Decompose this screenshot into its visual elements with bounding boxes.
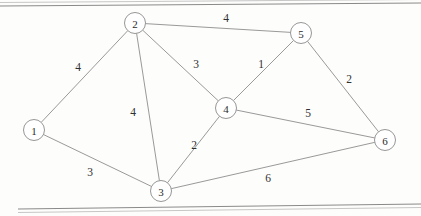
edge-weight-2-5: 4 <box>223 12 229 24</box>
graph-node-5[interactable]: 5 <box>291 23 312 44</box>
edge-weight-1-3: 3 <box>87 166 93 178</box>
graph-edge-2-5 <box>145 24 290 33</box>
graph-canvas: 123456 4343426152 <box>0 0 421 216</box>
graph-edges <box>41 24 378 189</box>
graph-node-1[interactable]: 1 <box>24 120 45 141</box>
page-rules <box>0 0 421 213</box>
graph-nodes: 123456 <box>24 13 396 202</box>
node-label-4: 4 <box>223 103 229 115</box>
edge-weight-2-3: 4 <box>130 106 136 118</box>
top-rule <box>0 3 421 6</box>
graph-node-3[interactable]: 3 <box>151 181 172 202</box>
top-rule-secondary <box>0 0 421 3</box>
graph-node-4[interactable]: 4 <box>216 98 237 119</box>
node-label-6: 6 <box>382 135 388 147</box>
graph-node-2[interactable]: 2 <box>125 13 146 34</box>
graph-edge-4-5 <box>233 40 293 100</box>
edge-weight-3-4: 2 <box>191 139 197 151</box>
node-label-3: 3 <box>158 186 164 198</box>
graph-edge-1-3 <box>43 135 151 187</box>
node-label-2: 2 <box>132 18 138 30</box>
edge-weight-3-6: 6 <box>265 172 271 184</box>
graph-edge-2-4 <box>143 30 219 101</box>
graph-edge-3-6 <box>171 142 375 188</box>
edge-weight-1-2: 4 <box>75 61 81 73</box>
node-label-5: 5 <box>298 28 304 40</box>
graph-figure: 123456 4343426152 <box>0 0 421 216</box>
edge-weight-4-6: 5 <box>305 107 311 119</box>
graph-edge-2-3 <box>137 33 160 180</box>
edge-weight-2-4: 3 <box>193 58 199 70</box>
edge-weight-4-5: 1 <box>258 58 264 70</box>
edge-weight-5-6: 2 <box>346 73 352 85</box>
graph-edge-5-6 <box>307 41 378 131</box>
graph-node-6[interactable]: 6 <box>375 130 396 151</box>
node-label-1: 1 <box>31 125 37 137</box>
graph-edge-1-2 <box>41 31 128 123</box>
